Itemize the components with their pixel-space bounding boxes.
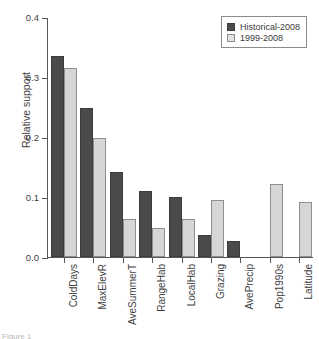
bar-aveprecip-historical [227, 241, 240, 257]
x-tick-label-avesummert: AveSummerT [127, 264, 138, 325]
y-tick-label: 0.0 [0, 252, 39, 263]
plot-area: 0.00.10.20.30.4 ColdDaysMaxElevRAveSumme… [47, 18, 313, 258]
x-tick-label-localhab: LocalHab [186, 264, 197, 306]
x-tick-mark [93, 258, 94, 263]
x-tick-mark [123, 258, 124, 263]
bar-grazing-recent [211, 200, 224, 257]
x-tick-mark [152, 258, 153, 263]
bar-group [198, 17, 224, 257]
legend-item-historical: Historical-2008 [227, 21, 300, 32]
x-tick-label-colddays: ColdDays [68, 264, 79, 307]
bar-latitude-recent [299, 202, 312, 257]
bar-group [139, 17, 165, 257]
y-tick-mark [42, 78, 47, 79]
y-tick-mark [42, 138, 47, 139]
bar-group [51, 17, 77, 257]
y-tick-label: 0.4 [0, 12, 39, 23]
bar-group [80, 17, 106, 257]
x-tick-mark [211, 258, 212, 263]
bar-grazing-historical [198, 235, 211, 257]
bar-group [257, 17, 283, 257]
bar-chart-figure: Relative support 0.00.10.20.30.4 ColdDay… [0, 0, 319, 339]
bar-localhab-recent [182, 219, 195, 257]
bar-avesummert-historical [110, 172, 123, 257]
x-tick-label-rangehab: RangeHab [156, 264, 167, 312]
x-tick-label-maxelevr: MaxElevR [97, 264, 108, 310]
legend-swatch-historical-icon [227, 23, 235, 31]
y-tick-mark [42, 258, 47, 259]
x-tick-mark [299, 258, 300, 263]
bar-group [227, 17, 253, 257]
legend-swatch-recent-icon [227, 34, 235, 42]
y-tick-mark [42, 198, 47, 199]
legend-label-historical: Historical-2008 [240, 22, 300, 32]
figure-caption: Figure 1 [2, 332, 31, 339]
x-tick-mark [182, 258, 183, 263]
bar-series-container [48, 17, 313, 257]
bar-avesummert-recent [123, 219, 136, 257]
x-tick-mark [64, 258, 65, 263]
bar-colddays-historical [51, 56, 64, 257]
y-tick-mark [42, 18, 47, 19]
bar-group [110, 17, 136, 257]
bar-pop1990s-recent [270, 184, 283, 257]
x-axis-line [47, 257, 313, 258]
x-tick-mark [270, 258, 271, 263]
bar-rangehab-historical [139, 191, 152, 257]
legend-label-recent: 1999-2008 [240, 33, 283, 43]
x-tick-label-pop1990s: Pop1990s [274, 264, 285, 309]
bar-maxelevr-historical [80, 108, 93, 257]
x-tick-label-latitude: Latitude [303, 264, 314, 300]
bar-colddays-recent [64, 68, 77, 257]
x-tick-mark [240, 258, 241, 263]
x-tick-label-grazing: Grazing [215, 264, 226, 299]
legend-item-recent: 1999-2008 [227, 32, 300, 43]
bar-maxelevr-recent [93, 138, 106, 257]
bar-group [286, 17, 312, 257]
bar-group [169, 17, 195, 257]
bar-localhab-historical [169, 197, 182, 257]
y-tick-label: 0.1 [0, 192, 39, 203]
chart-legend: Historical-2008 1999-2008 [221, 16, 307, 48]
bar-rangehab-recent [152, 228, 165, 257]
y-tick-label: 0.3 [0, 72, 39, 83]
y-axis-label: Relative support [20, 40, 32, 180]
x-tick-label-aveprecip: AvePrecip [244, 264, 255, 309]
y-tick-label: 0.2 [0, 132, 39, 143]
